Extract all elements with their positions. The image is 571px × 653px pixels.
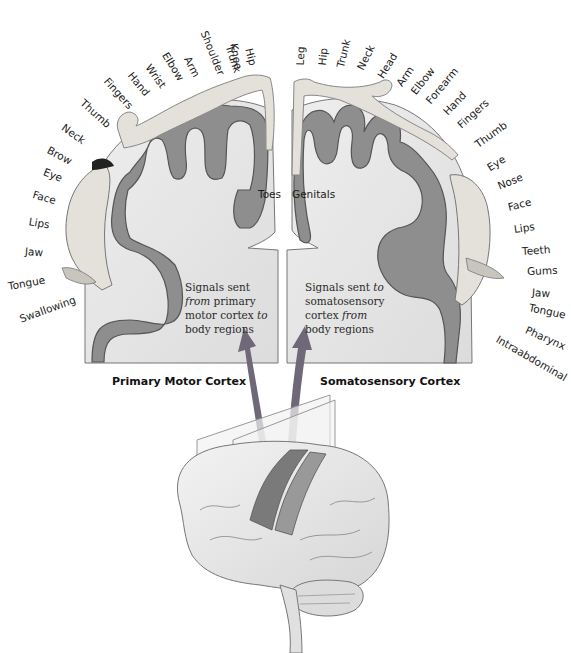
motor-cortex-title: Primary Motor Cortex <box>112 375 246 388</box>
sensory-label-hip: Hip <box>317 47 329 65</box>
sensory-caption: Signals sent to somatosensory cortex fro… <box>305 280 385 336</box>
brain-illustration <box>177 395 389 653</box>
sensory-label-leg: Leg <box>295 46 306 65</box>
motor-caption: Signals sent from primary motor cortex t… <box>185 280 268 336</box>
homunculus-diagram: Knee Hip Trunk Shoulder Arm Elbow Wrist … <box>0 0 571 653</box>
sensory-label-genitals: Genitals <box>292 188 335 200</box>
sensory-label-gums: Gums <box>527 265 558 277</box>
sensory-label-lips: Lips <box>513 221 535 234</box>
sensory-cortex-title: Somatosensory Cortex <box>320 375 460 388</box>
sensory-label-teeth: Teeth <box>522 244 551 256</box>
motor-label-toes: Toes <box>258 188 281 200</box>
motor-label-jaw: Jaw <box>25 246 44 258</box>
sensory-label-jaw: Jaw <box>532 287 551 299</box>
